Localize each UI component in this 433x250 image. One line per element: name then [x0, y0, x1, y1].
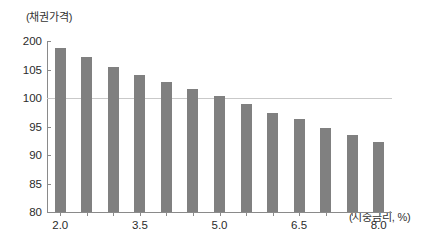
x-axis-tick-mark — [326, 212, 327, 216]
bar — [347, 135, 358, 212]
x-axis-tick-label: 6.5 — [291, 219, 307, 231]
x-axis-tick-label: 3.5 — [132, 219, 148, 231]
bar — [134, 75, 145, 212]
x-axis-tick-mark — [246, 212, 247, 216]
x-axis-tick-mark — [379, 212, 380, 216]
bar — [267, 113, 278, 212]
x-axis-tick-mark — [113, 212, 114, 216]
bar-series — [0, 0, 433, 213]
x-axis-tick-mark — [140, 212, 141, 216]
x-axis-tick-mark — [193, 212, 194, 216]
bar — [320, 128, 331, 212]
bar — [241, 104, 252, 212]
bar — [161, 82, 172, 212]
bar — [373, 142, 384, 212]
bar — [294, 119, 305, 212]
x-axis-tick-mark — [220, 212, 221, 216]
x-axis-tick-mark — [166, 212, 167, 216]
x-axis-tick-label: 5.0 — [212, 219, 228, 231]
bar — [214, 96, 225, 212]
x-axis-tick-mark — [273, 212, 274, 216]
x-axis-tick-label: 8.0 — [371, 219, 387, 231]
bar — [55, 48, 66, 212]
bar — [108, 67, 119, 212]
bar — [187, 89, 198, 212]
x-axis-tick-mark — [299, 212, 300, 216]
x-axis-tick-mark — [352, 212, 353, 216]
chart-screenshot: (채권가격) (시중금리, %) 20010510095908580 2.03.… — [0, 0, 433, 250]
x-axis-tick-label: 2.0 — [52, 219, 68, 231]
x-axis-tick-mark — [60, 212, 61, 216]
x-axis-tick-mark — [87, 212, 88, 216]
bar — [81, 57, 92, 212]
